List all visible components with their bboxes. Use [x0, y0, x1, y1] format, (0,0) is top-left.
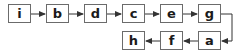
node-d: d	[84, 4, 107, 23]
node-b: b	[46, 4, 69, 23]
node-c: c	[122, 4, 145, 23]
node-h: h	[122, 31, 145, 50]
node-g: g	[198, 4, 221, 23]
node-f: f	[160, 31, 183, 50]
node-i: i	[8, 4, 31, 23]
node-a: a	[198, 31, 221, 50]
edge-g-a	[221, 14, 232, 41]
node-e: e	[160, 4, 183, 23]
